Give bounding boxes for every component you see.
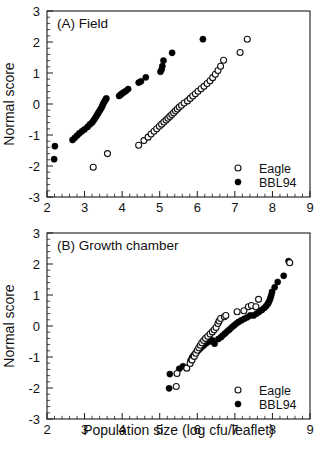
panel-title: (B) Growth chamber (57, 238, 179, 253)
data-point (281, 273, 287, 279)
data-point (136, 142, 142, 148)
x-axis-tick-label: 6 (194, 200, 201, 215)
legend-label-bbl94: BBL94 (259, 398, 297, 412)
y-axis-tick-label: 2 (33, 257, 40, 272)
data-point (173, 383, 179, 389)
y-axis-tick-label: -2 (28, 159, 40, 174)
legend-label-eagle: Eagle (259, 384, 291, 398)
data-point (223, 312, 229, 318)
x-axis-tick-label: 8 (269, 200, 276, 215)
x-axis-tick-label: 9 (306, 422, 313, 437)
y-axis-title: Normal score (1, 284, 17, 367)
data-point (253, 304, 259, 310)
data-point (143, 74, 149, 80)
legend-marker-eagle (235, 165, 241, 171)
data-point (167, 371, 173, 377)
data-point (234, 309, 240, 315)
data-point (125, 86, 131, 92)
data-point (244, 36, 250, 42)
y-axis-tick-label: -1 (28, 128, 40, 143)
y-axis-title: Normal score (1, 62, 17, 145)
y-axis-tick-label: 2 (33, 35, 40, 50)
legend-label-bbl94: BBL94 (259, 176, 297, 190)
data-point (237, 50, 243, 56)
x-axis-tick-label: 4 (119, 200, 126, 215)
data-point (218, 63, 224, 69)
x-axis-tick-label: 9 (306, 200, 313, 215)
legend-marker-bbl94 (235, 401, 241, 407)
x-axis-tick-label: 2 (43, 422, 50, 437)
x-axis-tick-label: 2 (43, 200, 50, 215)
y-axis-tick-label: -3 (28, 412, 40, 427)
x-axis-tick-label: 5 (156, 200, 163, 215)
y-axis-tick-label: 0 (33, 319, 40, 334)
legend-marker-bbl94 (235, 179, 241, 185)
data-point (169, 50, 175, 56)
y-axis-tick-label: 3 (33, 4, 40, 19)
legend-marker-eagle (235, 387, 241, 393)
y-axis-tick-label: 1 (33, 66, 40, 81)
y-axis-tick-label: -1 (28, 350, 40, 365)
data-point (221, 57, 227, 63)
y-axis-tick-label: 1 (33, 288, 40, 303)
data-point (52, 143, 58, 149)
data-point (159, 63, 165, 69)
x-axis-tick-label: 3 (81, 200, 88, 215)
y-axis-tick-label: 3 (33, 226, 40, 241)
data-point (160, 58, 166, 64)
data-point (287, 260, 293, 266)
data-point (200, 36, 206, 42)
panel-title: (A) Field (57, 16, 108, 31)
y-axis-tick-label: -3 (28, 190, 40, 205)
x-axis-tick-label: 7 (231, 200, 238, 215)
x-axis-title: Population size (log cfu/leaflet) (83, 422, 274, 438)
normal-probability-plot-figure: 23456789-3-2-10123(A) FieldNormal scoreE… (0, 0, 330, 464)
data-point (275, 279, 281, 285)
data-point (166, 385, 172, 391)
data-point (51, 156, 57, 162)
data-point (103, 95, 109, 101)
y-axis-tick-label: 0 (33, 97, 40, 112)
y-axis-tick-label: -2 (28, 381, 40, 396)
figure-container: 23456789-3-2-10123(A) FieldNormal scoreE… (0, 0, 330, 464)
data-point (104, 151, 110, 157)
data-point (256, 296, 262, 302)
data-point (90, 164, 96, 170)
data-point (174, 370, 180, 376)
legend-label-eagle: Eagle (259, 162, 291, 176)
